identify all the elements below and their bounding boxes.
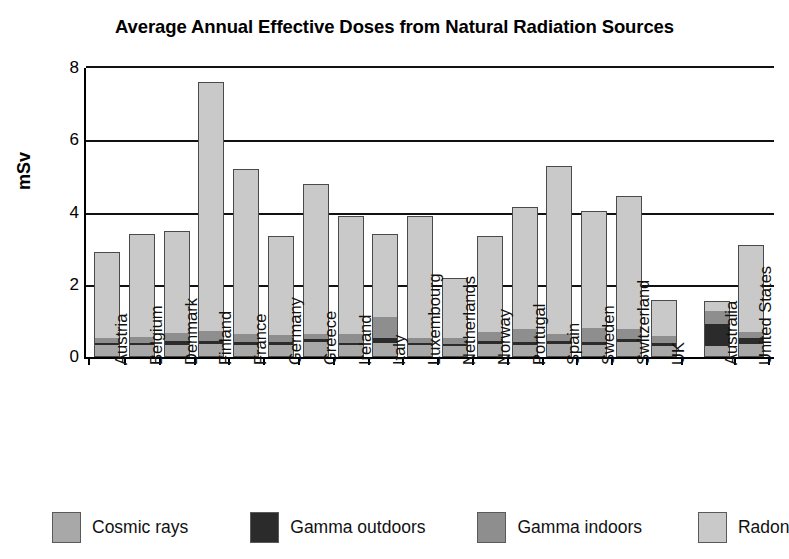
legend-swatch-icon [477, 512, 506, 543]
y-tick-label-8: 8 [70, 58, 79, 78]
segment-radon [373, 235, 397, 317]
y-tick-label-2: 2 [70, 275, 79, 295]
x-axis-label-finland: Finland [216, 311, 235, 365]
y-axis-title: mSv [14, 152, 35, 190]
x-axis-label-spain: Spain [564, 323, 583, 365]
x-axis-label-uk: UK [669, 342, 688, 365]
x-axis-label-austria: Austria [112, 314, 131, 365]
gridline-8 [86, 66, 774, 68]
x-axis-label-greece: Greece [321, 311, 340, 365]
segment-radon [652, 301, 676, 336]
x-axis-label-sweden: Sweden [599, 305, 618, 365]
legend-item-gamma-indoors: Gamma indoors [477, 512, 642, 543]
chart-legend: Cosmic raysGamma outdoorsGamma indoorsRa… [52, 507, 752, 547]
y-tick-label-0: 0 [70, 347, 79, 367]
legend-item-gamma-outdoors: Gamma outdoors [250, 512, 425, 543]
x-axis-label-netherlands: Netherlands [460, 276, 479, 365]
x-axis-label-denmark: Denmark [182, 298, 201, 365]
legend-label: Gamma outdoors [290, 517, 425, 538]
legend-swatch-icon [52, 512, 81, 543]
x-axis-label-belgium: Belgium [147, 305, 166, 365]
x-axis-label-australia: Australia [722, 301, 741, 365]
x-axis-label-ireland: Ireland [356, 315, 375, 365]
legend-item-radon: Radon [698, 512, 789, 543]
legend-swatch-icon [250, 512, 279, 543]
segment-radon [199, 83, 223, 330]
x-axis-label-portugal: Portugal [530, 304, 549, 365]
segment-radon [547, 167, 571, 334]
y-tick-label-6: 6 [70, 130, 79, 150]
x-axis-label-france: France [251, 314, 270, 365]
legend-swatch-icon [698, 512, 727, 543]
x-axis-label-germany: Germany [286, 297, 305, 365]
legend-label: Gamma indoors [517, 517, 642, 538]
legend-label: Radon [738, 517, 789, 538]
x-axis-label-norway: Norway [495, 309, 514, 365]
legend-label: Cosmic rays [92, 517, 188, 538]
x-axis-label-italy: Italy [390, 335, 409, 365]
gridline-6 [86, 140, 774, 142]
x-tickmark [88, 357, 90, 365]
legend-item-cosmic-rays: Cosmic rays [52, 512, 188, 543]
chart-title: Average Annual Effective Doses from Natu… [0, 16, 789, 38]
y-tick-label-4: 4 [70, 203, 79, 223]
chart-figure: Average Annual Effective Doses from Natu… [0, 0, 789, 559]
x-axis-label-luxembourg: Luxembourg [425, 273, 444, 365]
x-axis-label-switzerland: Switzerland [634, 280, 653, 365]
segment-radon [234, 170, 258, 333]
gridline-4 [86, 213, 774, 215]
x-axis-label-united-states: United States [756, 266, 775, 365]
